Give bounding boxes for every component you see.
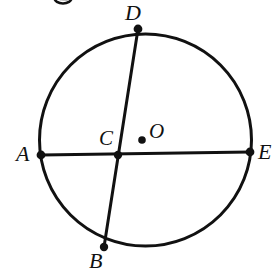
center-point-label-O: O <box>149 121 164 142</box>
point-label-D: D <box>125 2 141 24</box>
center-point-O-dot <box>138 136 146 144</box>
point-A-dot <box>37 151 46 160</box>
point-label-A: A <box>16 143 29 165</box>
point-label-E: E <box>258 141 271 163</box>
geometry-canvas <box>0 0 280 280</box>
cropped-glyph-top-edge <box>55 0 72 4</box>
point-label-B: B <box>89 250 102 272</box>
point-D-dot <box>134 25 143 34</box>
geometry-figure: A B C D E O <box>0 0 280 280</box>
point-label-C: C <box>99 128 113 149</box>
chord-A-E <box>41 152 250 155</box>
point-E-dot <box>246 148 255 157</box>
point-C-dot <box>114 151 122 159</box>
